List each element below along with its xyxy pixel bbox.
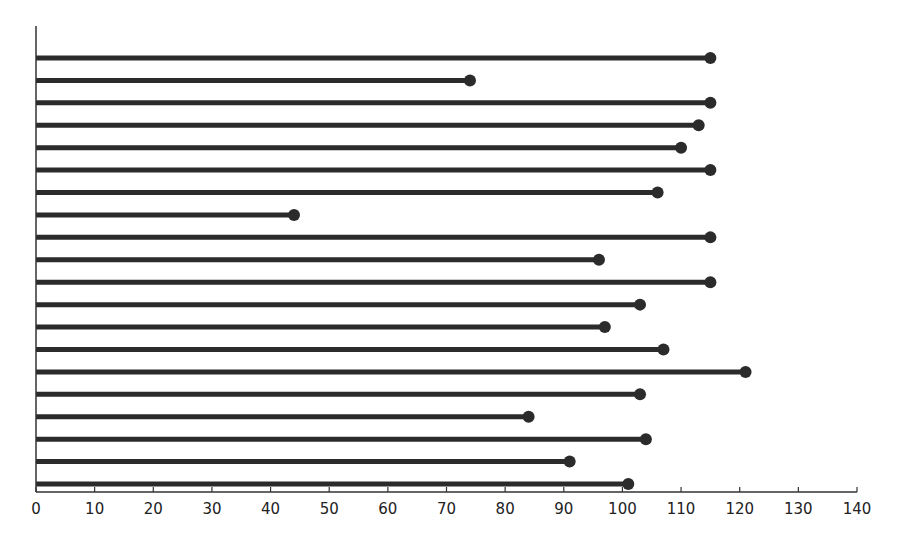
lollipop-dot [740,366,752,378]
lollipop-item [36,52,716,64]
lollipop-dot [464,74,476,86]
x-tick-label: 140 [843,500,872,518]
lollipop-dot [622,478,634,490]
lollipop-item [36,343,669,355]
lollipop-dot [523,411,535,423]
x-tick-label: 20 [144,500,163,518]
lollipop-dot [704,97,716,109]
lollipop-item [36,299,646,311]
lollipop-dot [657,343,669,355]
lollipop-dot [288,209,300,221]
lollipop-dot [704,276,716,288]
x-tick-label: 80 [496,500,515,518]
lollipop-item [36,142,687,154]
x-tick-label: 70 [437,500,456,518]
lollipop-dot [704,231,716,243]
lollipop-item [36,411,535,423]
x-tick-label: 40 [261,500,280,518]
lollipop-item [36,187,664,199]
x-tick-label: 30 [202,500,221,518]
x-tick-label: 100 [608,500,637,518]
x-tick-label: 90 [554,500,573,518]
x-tick-label: 60 [378,500,397,518]
lollipop-dot [640,433,652,445]
lollipop-dot [599,321,611,333]
lollipop-item [36,321,611,333]
lollipop-item [36,231,716,243]
lollipop-dot [704,164,716,176]
lollipop-item [36,254,605,266]
x-tick-label: 0 [31,500,41,518]
lollipop-dot [634,388,646,400]
lollipop-item [36,119,705,131]
lollipop-item [36,433,652,445]
lollipop-item [36,209,300,221]
lollipop-chart: 0102030405060708090100110120130140 [0,0,900,548]
x-tick-label: 50 [320,500,339,518]
lollipop-item [36,366,752,378]
x-tick-label: 130 [784,500,813,518]
x-tick-label: 110 [667,500,696,518]
lollipop-item [36,97,716,109]
lollipop-dot [675,142,687,154]
x-tick-label: 10 [85,500,104,518]
lollipop-item [36,74,476,86]
lollipop-item [36,478,634,490]
lollipop-dot [564,456,576,468]
lollipop-dot [704,52,716,64]
lollipop-dot [693,119,705,131]
lollipop-item [36,388,646,400]
x-tick-label: 120 [725,500,754,518]
lollipop-dot [593,254,605,266]
lollipop-item [36,456,576,468]
lollipop-dot [634,299,646,311]
lollipop-item [36,164,716,176]
lollipop-dot [652,187,664,199]
bars-group [36,52,752,490]
lollipop-item [36,276,716,288]
